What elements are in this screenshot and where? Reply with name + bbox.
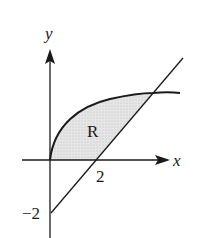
shaded-region-r [50,93,153,160]
region-label: R [87,122,99,141]
region-diagram: y x 2 −2 R [0,0,201,238]
x-axis-label: x [172,151,181,170]
y-axis-label: y [43,24,53,43]
x-intercept-label: 2 [96,167,105,186]
y-intercept-label: −2 [22,204,40,223]
